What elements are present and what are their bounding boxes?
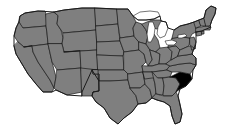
state-WY[interactable] (62, 30, 97, 52)
us-map-svg (0, 0, 225, 131)
state-ND[interactable] (95, 8, 118, 26)
state-NE[interactable] (97, 41, 124, 56)
state-RI[interactable] (202, 31, 204, 34)
state-KS[interactable] (97, 55, 124, 70)
state-SD[interactable] (96, 24, 120, 42)
state-MT[interactable] (54, 8, 96, 33)
us-map-container (0, 0, 225, 131)
